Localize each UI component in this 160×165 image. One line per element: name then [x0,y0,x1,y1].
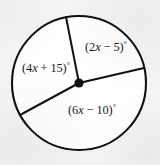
angle-label-upper-right-suffix: − 5) [101,40,124,54]
circle-diagram: (2x − 5)° (4x + 15)° (6x − 10)° [0,0,160,165]
center-dot [74,78,83,87]
angle-label-upper-right-prefix: (2 [85,40,95,54]
angle-label-bottom-prefix: (6 [68,103,78,117]
angle-label-left: (4x + 15)° [22,61,70,76]
angle-label-upper-right: (2x − 5)° [85,40,127,55]
degree-symbol-left: ° [67,61,70,70]
angle-label-bottom: (6x − 10)° [68,103,116,118]
angle-label-left-prefix: (4 [22,61,32,75]
angle-label-bottom-suffix: − 10) [84,103,113,117]
angle-label-left-suffix: + 15) [38,61,67,75]
figure-root: (2x − 5)° (4x + 15)° (6x − 10)° [0,0,160,165]
degree-symbol-upper-right: ° [124,40,127,49]
degree-symbol-bottom: ° [113,103,116,112]
